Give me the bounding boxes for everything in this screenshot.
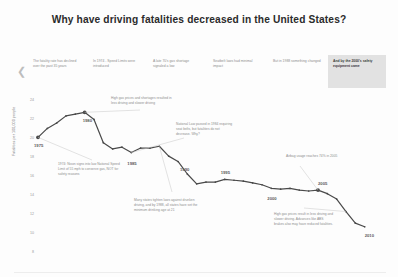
x-label-1980: 1980 bbox=[83, 118, 92, 123]
y-tick-14: 14 bbox=[22, 193, 34, 197]
x-label-1995: 1995 bbox=[221, 170, 230, 175]
annot-nixon-speed-limit-1974: 1974: Nixon signs into law National Spee… bbox=[58, 162, 120, 176]
data-point-1992 bbox=[196, 183, 198, 185]
y-tick-18: 18 bbox=[22, 155, 34, 159]
leader-line-4 bbox=[300, 166, 318, 190]
story-cells: The fatality rate has declined over the … bbox=[28, 55, 386, 88]
data-point-1975 bbox=[36, 135, 40, 139]
data-point-2001 bbox=[280, 188, 282, 190]
y-tick-8: 8 bbox=[22, 250, 34, 254]
data-point-1986 bbox=[140, 147, 142, 149]
x-label-2010: 2010 bbox=[365, 233, 374, 238]
y-axis-title: Fatalities per 100,000 people bbox=[12, 64, 16, 156]
data-point-1995 bbox=[224, 179, 226, 181]
y-tick-22: 22 bbox=[22, 117, 34, 121]
data-point-1998 bbox=[252, 182, 254, 184]
data-point-1990 bbox=[177, 161, 179, 163]
data-point-1996 bbox=[233, 179, 235, 181]
chevron-left-icon[interactable]: ❮ bbox=[14, 55, 28, 88]
data-point-2006 bbox=[326, 193, 328, 195]
data-point-2000 bbox=[270, 187, 272, 189]
annot-airbag-usage-2005: Airbag usage reaches 74% in 2005 bbox=[286, 154, 338, 159]
y-tick-24: 24 bbox=[22, 98, 34, 102]
data-point-1999 bbox=[261, 184, 263, 186]
y-tick-10: 10 bbox=[22, 231, 34, 235]
annot-drunken-driving-1988: Many states tighten laws against drunken… bbox=[134, 198, 204, 212]
footer-divider bbox=[14, 272, 386, 273]
x-label-1990: 1990 bbox=[180, 167, 189, 172]
story-cell-3[interactable]: Seatbelt laws had minimal impact bbox=[208, 55, 266, 88]
data-point-2002 bbox=[289, 187, 291, 189]
title-bar: Why have driving fatalities decreased in… bbox=[0, 14, 398, 25]
x-label-1985: 1985 bbox=[127, 161, 136, 166]
data-point-1982 bbox=[102, 142, 104, 144]
x-label-2000: 2000 bbox=[267, 196, 276, 201]
data-point-1994 bbox=[214, 181, 216, 183]
x-label-1975: 1975 bbox=[34, 143, 43, 148]
data-point-1989 bbox=[168, 155, 170, 157]
plot-region: 1975 1980 1985 1990 1995 2000 2005 2010 … bbox=[36, 92, 386, 264]
leader-line-2 bbox=[131, 138, 184, 153]
y-tick-12: 12 bbox=[22, 212, 34, 216]
story-cell-2[interactable]: A late 70's gas shortage signaled a low bbox=[148, 55, 206, 88]
data-point-2009 bbox=[354, 222, 356, 224]
data-point-1979 bbox=[74, 113, 76, 115]
page-title: Why have driving fatalities decreased in… bbox=[0, 14, 398, 25]
data-point-2004 bbox=[308, 190, 310, 192]
data-point-2003 bbox=[298, 189, 300, 191]
data-point-1997 bbox=[242, 180, 244, 182]
x-label-2005: 2005 bbox=[318, 181, 327, 186]
story-cell-5[interactable]: And by the 2000's safety equipment came bbox=[328, 55, 386, 88]
data-point-1983 bbox=[112, 148, 114, 150]
data-point-2007 bbox=[336, 198, 338, 200]
story-cell-1[interactable]: In 1974 - Speed Limits were introduced bbox=[88, 55, 146, 88]
annot-high-gas-prices-1980: High gas prices and shortages resulted i… bbox=[111, 96, 173, 106]
leader-line-0 bbox=[85, 110, 140, 112]
y-tick-16: 16 bbox=[22, 174, 34, 178]
y-tick-20: 20 bbox=[22, 136, 34, 140]
data-point-1977 bbox=[56, 122, 58, 124]
data-point-1984 bbox=[121, 146, 123, 148]
data-point-2010 bbox=[364, 226, 366, 228]
leader-line-1 bbox=[38, 137, 92, 160]
story-cell-0[interactable]: The fatality rate has declined over the … bbox=[28, 55, 86, 88]
data-point-1976 bbox=[46, 128, 48, 130]
story-cell-4[interactable]: But in 1988 something changed bbox=[268, 55, 326, 88]
data-point-1981 bbox=[93, 119, 95, 121]
data-point-1993 bbox=[205, 181, 207, 183]
slide-canvas: Why have driving fatalities decreased in… bbox=[0, 0, 398, 277]
chart-area: Fatalities per 100,000 people 24 22 20 1… bbox=[14, 92, 386, 267]
story-strip: ❮ The fatality rate has declined over th… bbox=[14, 55, 386, 88]
data-point-1991 bbox=[186, 173, 188, 175]
data-point-1978 bbox=[65, 115, 67, 117]
annot-seatbelt-law-1984: National Law passed in 1984 requiring se… bbox=[176, 122, 234, 136]
annot-gas-prices-abs-2008: High gas prices result in less driving a… bbox=[274, 212, 334, 226]
